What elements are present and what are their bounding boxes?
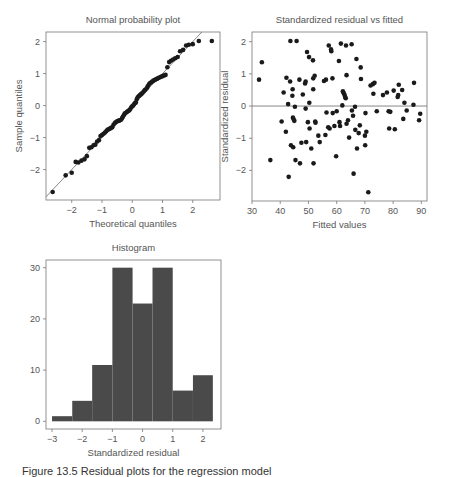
data-point bbox=[304, 140, 309, 145]
data-point bbox=[324, 110, 329, 115]
x-tick-label: 30 bbox=[247, 206, 257, 216]
data-point bbox=[303, 106, 308, 111]
data-point bbox=[338, 124, 343, 129]
data-point bbox=[293, 104, 298, 109]
data-point bbox=[353, 104, 358, 109]
histogram-bar bbox=[173, 391, 193, 422]
data-point bbox=[351, 171, 356, 176]
data-point bbox=[306, 120, 311, 125]
data-point bbox=[330, 111, 335, 116]
histogram-bar bbox=[153, 268, 173, 422]
resid_vs_fitted-ylabel: Standardized residual bbox=[219, 71, 230, 163]
resid_vs_fitted-panel: Standardized residual vs fitted304050607… bbox=[219, 14, 427, 230]
data-point bbox=[307, 55, 312, 60]
data-point bbox=[301, 92, 306, 97]
data-point bbox=[324, 77, 329, 82]
data-point bbox=[63, 173, 68, 178]
data-point bbox=[385, 90, 390, 95]
data-point bbox=[363, 143, 368, 148]
data-point bbox=[307, 101, 312, 106]
y-tick-label: 2 bbox=[241, 37, 246, 47]
data-point bbox=[418, 111, 423, 116]
resid_vs_fitted-title: Standardized residual vs fitted bbox=[276, 14, 403, 25]
data-point bbox=[349, 42, 354, 47]
x-tick-label: 1 bbox=[160, 205, 165, 215]
data-point bbox=[288, 79, 293, 84]
x-tick-label: 70 bbox=[360, 206, 370, 216]
x-tick-label: 0 bbox=[130, 205, 135, 215]
data-point bbox=[290, 87, 295, 92]
data-point bbox=[344, 73, 349, 78]
y-tick-label: −1 bbox=[236, 133, 246, 143]
x-tick-label: −3 bbox=[47, 434, 57, 444]
data-point bbox=[372, 81, 377, 86]
data-point bbox=[197, 39, 202, 44]
data-point bbox=[402, 101, 407, 106]
histogram-bar bbox=[92, 365, 112, 421]
data-point bbox=[165, 65, 170, 70]
data-point bbox=[284, 129, 289, 134]
data-point bbox=[292, 119, 297, 124]
histogram-bar bbox=[112, 268, 132, 422]
data-point bbox=[257, 77, 262, 82]
data-point bbox=[316, 133, 321, 138]
histogram-plot-area bbox=[52, 268, 213, 422]
data-point bbox=[332, 124, 337, 129]
data-point bbox=[181, 48, 186, 53]
data-point bbox=[260, 60, 265, 65]
data-point bbox=[337, 120, 342, 125]
data-point bbox=[293, 158, 298, 163]
data-point bbox=[400, 88, 405, 93]
data-point bbox=[279, 119, 284, 124]
data-point bbox=[404, 108, 409, 113]
data-point bbox=[381, 93, 386, 98]
data-point bbox=[347, 135, 352, 140]
data-point bbox=[391, 88, 396, 93]
resid_vs_fitted-frame bbox=[252, 32, 427, 201]
data-point bbox=[334, 154, 339, 159]
data-point bbox=[309, 146, 314, 151]
y-tick-label: 30 bbox=[30, 263, 40, 273]
histogram-panel: Histogram−3−2−10120102030Standardized re… bbox=[30, 242, 221, 458]
data-point bbox=[344, 43, 349, 48]
x-tick-label: −1 bbox=[97, 205, 107, 215]
data-point bbox=[286, 175, 291, 180]
figure-caption: Figure 13.5 Residual plots for the regre… bbox=[22, 465, 450, 477]
data-point bbox=[97, 138, 102, 143]
histogram-xlabel: Standardized residual bbox=[88, 447, 180, 458]
resid_vs_fitted-plot-area bbox=[252, 39, 427, 195]
data-point bbox=[337, 59, 342, 64]
data-point bbox=[298, 161, 303, 166]
histogram-bar bbox=[193, 375, 213, 421]
y-tick-label: 0 bbox=[35, 416, 40, 426]
data-point bbox=[374, 109, 379, 114]
x-tick-label: 50 bbox=[303, 206, 313, 216]
data-point bbox=[396, 93, 401, 98]
data-point bbox=[69, 171, 74, 176]
data-point bbox=[313, 120, 318, 125]
data-point bbox=[187, 43, 192, 48]
data-point bbox=[305, 50, 310, 55]
qq-xlabel: Theoretical quantiles bbox=[89, 218, 177, 229]
y-tick-label: −2 bbox=[30, 165, 40, 175]
data-point bbox=[284, 75, 289, 80]
y-tick-label: −1 bbox=[30, 133, 40, 143]
x-tick-label: 80 bbox=[388, 206, 398, 216]
data-point bbox=[294, 39, 299, 44]
data-point bbox=[350, 108, 355, 113]
x-tick-label: 2 bbox=[190, 205, 195, 215]
data-point bbox=[85, 154, 90, 159]
data-point bbox=[268, 158, 273, 163]
data-point bbox=[339, 41, 344, 46]
x-tick-label: 2 bbox=[200, 434, 205, 444]
data-point bbox=[340, 103, 345, 108]
resid_vs_fitted-xlabel: Fitted values bbox=[313, 219, 367, 230]
data-point bbox=[366, 190, 371, 195]
data-point bbox=[329, 49, 334, 54]
data-point bbox=[396, 82, 401, 87]
data-point bbox=[323, 133, 328, 138]
data-point bbox=[311, 58, 316, 63]
x-tick-label: 40 bbox=[275, 206, 285, 216]
data-point bbox=[412, 81, 417, 86]
x-tick-label: 60 bbox=[332, 206, 342, 216]
